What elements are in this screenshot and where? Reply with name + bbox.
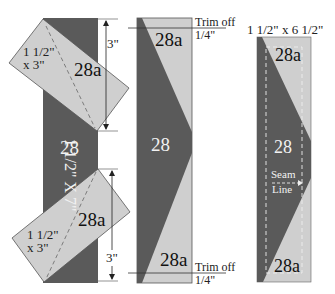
panel3-size-label: 1 1/2" x 6 1/2" xyxy=(247,22,323,38)
trim-bottom-label-line2: 1/4" xyxy=(195,273,215,288)
seam-label-line2: Line xyxy=(272,183,292,195)
trim-top-label-line2: 1/4" xyxy=(195,28,215,43)
panel3-bottom-piece: 28a xyxy=(274,256,300,277)
panel3-top-piece: 28a xyxy=(275,45,301,66)
top-patch-size-line2: x 3" xyxy=(23,57,45,73)
panel1-piece-28: 28 xyxy=(60,137,79,159)
panel2-bottom-piece: 28a xyxy=(160,249,187,271)
seam-label-line1: Seam xyxy=(271,168,295,180)
panel2-top-piece: 28a xyxy=(155,29,182,51)
panel3-center-piece: 28 xyxy=(274,137,292,158)
bottom-dimension-label: 3" xyxy=(106,250,118,266)
top-dimension-label: 3" xyxy=(107,36,119,52)
panel2-center-piece: 28 xyxy=(151,134,170,156)
top-patch-piece-label: 28a xyxy=(74,59,101,81)
panel-3-finished xyxy=(257,37,311,282)
bottom-patch-size-line2: x 3" xyxy=(27,240,49,256)
bottom-patch-piece-label: 28a xyxy=(78,209,105,231)
panel-2-trimmed xyxy=(128,18,226,283)
